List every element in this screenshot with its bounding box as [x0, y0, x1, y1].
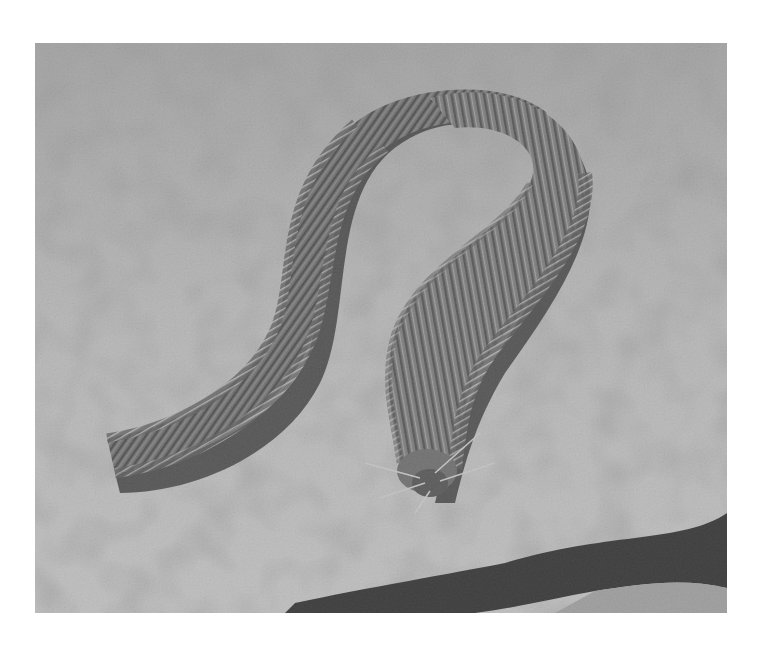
film-grain [35, 43, 727, 613]
photograph: Bristle worm on sand [35, 43, 727, 613]
worm-photo-canvas [35, 43, 727, 613]
